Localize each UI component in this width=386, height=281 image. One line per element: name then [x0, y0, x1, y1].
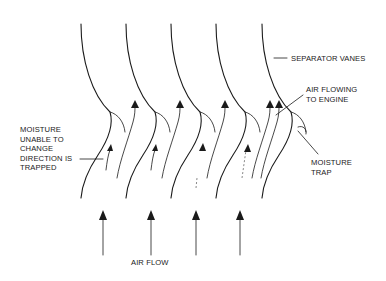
- moisture-separator-diagram: SEPARATOR VANES AIR FLOWING TO ENGINE MO…: [0, 0, 386, 281]
- moisture-arrow-4: [242, 144, 251, 178]
- separator-vane-5: [262, 24, 306, 198]
- label-air-flowing-to-engine: AIR FLOWING TO ENGINE: [306, 85, 357, 104]
- moisture-arrow-1: [106, 144, 113, 170]
- inlet-arrow-3: [192, 210, 200, 255]
- moisture-arrow-3: [196, 143, 206, 188]
- label-moisture-trapped: MOISTURE UNABLE TO CHANGE DIRECTION IS T…: [20, 125, 72, 173]
- label-separator-vanes: SEPARATOR VANES: [291, 54, 365, 64]
- moisture-arrow-2: [151, 144, 158, 170]
- inlet-arrow-2: [147, 210, 155, 255]
- leader-moisture-trap: [298, 131, 318, 154]
- inlet-arrow-4: [236, 210, 244, 255]
- air-flow-path-arrow-4: [252, 100, 274, 178]
- label-moisture-trap: MOISTURE TRAP: [311, 158, 352, 177]
- inlet-arrow-1: [99, 210, 107, 255]
- label-air-flow: AIR FLOW: [131, 258, 169, 268]
